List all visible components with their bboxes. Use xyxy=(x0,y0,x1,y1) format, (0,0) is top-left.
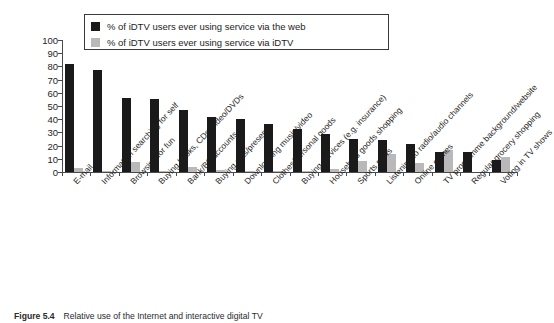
x-axis-tick-mark xyxy=(432,172,433,176)
x-axis-tick-mark xyxy=(403,172,404,176)
y-axis-tick-mark xyxy=(58,53,62,54)
bar-group xyxy=(93,40,111,172)
y-axis-tick-mark xyxy=(58,132,62,133)
x-axis-tick-mark xyxy=(119,172,120,176)
legend-label: % of iDTV users ever using service via t… xyxy=(107,22,306,32)
y-axis-tick-label: 10 xyxy=(47,154,58,164)
x-axis-tick-mark xyxy=(375,172,376,176)
x-axis-tick-mark xyxy=(261,172,262,176)
y-axis-tick-label: 40 xyxy=(47,115,58,125)
y-axis-tick-label: 70 xyxy=(47,75,58,85)
bar-group xyxy=(65,40,83,172)
y-axis-tick-mark xyxy=(58,159,62,160)
x-axis-tick-mark xyxy=(460,172,461,176)
y-axis-tick-mark xyxy=(58,106,62,107)
x-axis-tick-mark xyxy=(176,172,177,176)
caption-number: Figure 5.4 xyxy=(14,311,55,321)
y-axis-tick-mark xyxy=(58,119,62,120)
y-axis-tick-label: 80 xyxy=(47,62,58,72)
x-axis-tick-mark xyxy=(90,172,91,176)
bar-web xyxy=(65,64,74,172)
x-axis-tick-mark xyxy=(346,172,347,176)
y-axis-tick-label: 30 xyxy=(47,128,58,138)
x-axis-tick-mark xyxy=(62,172,63,176)
y-axis-tick-mark xyxy=(58,93,62,94)
x-axis-tick-mark xyxy=(147,172,148,176)
x-axis-tick-mark xyxy=(489,172,490,176)
y-axis-tick-mark xyxy=(58,80,62,81)
figure-caption: Figure 5.4Relative use of the Internet a… xyxy=(14,311,263,321)
y-axis-tick-mark xyxy=(58,40,62,41)
y-axis-tick-label: 20 xyxy=(47,141,58,151)
y-axis-tick-label: 100 xyxy=(42,36,58,46)
x-axis-tick-mark xyxy=(318,172,319,176)
y-axis-tick-mark xyxy=(58,66,62,67)
chart-legend: % of iDTV users ever using service via t… xyxy=(84,14,389,50)
bar-web xyxy=(93,70,102,172)
x-axis-tick-mark xyxy=(517,172,518,176)
y-axis-tick-label: 60 xyxy=(47,88,58,98)
legend-swatch-icon xyxy=(91,22,100,31)
legend-item: % of iDTV users ever using service via t… xyxy=(91,19,382,34)
x-axis-tick-mark xyxy=(290,172,291,176)
legend-item: % of iDTV users ever using service via i… xyxy=(91,35,382,50)
y-axis-tick-mark xyxy=(58,146,62,147)
legend-label: % of iDTV users ever using service via i… xyxy=(107,38,293,48)
x-axis-tick-mark xyxy=(204,172,205,176)
x-axis-tick-mark xyxy=(233,172,234,176)
caption-text: Relative use of the Internet and interac… xyxy=(64,311,263,321)
y-axis-tick-label: 90 xyxy=(47,49,58,59)
y-axis-tick-label: 50 xyxy=(47,102,58,112)
legend-swatch-icon xyxy=(91,38,100,47)
